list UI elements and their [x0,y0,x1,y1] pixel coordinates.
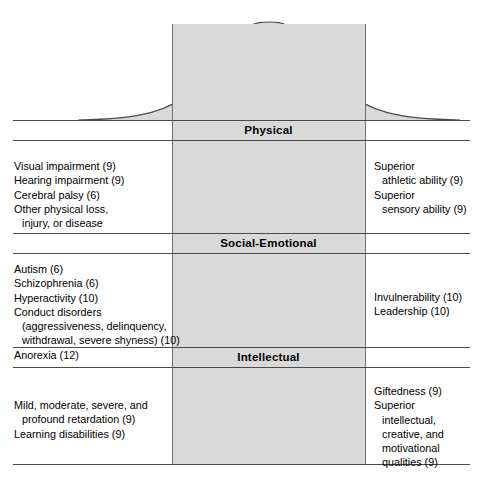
list-item: Cerebral palsy (6) [14,188,170,202]
list-item: Giftedness (9) [374,384,480,398]
band-title-intellectual: Intellectual [172,351,365,363]
band-title-physical: Physical [172,124,365,136]
list-item: Superior [374,159,480,173]
list-item: Conduct disorders [14,305,189,319]
intellectual-deficits-list: Mild, moderate, severe, and profound ret… [14,398,189,441]
list-item: intellectual, [374,413,480,427]
physical-deficits-list: Visual impairment (9) Hearing impairment… [14,159,170,230]
list-item: Learning disabilities (9) [14,427,189,441]
normal-curve-exceptionality-figure: "Normality" Physical Social-Emotional In… [0,0,484,480]
list-item: motivational [374,441,480,455]
list-item: athletic ability (9) [374,173,480,187]
list-item: Invulnerability (10) [374,290,480,304]
list-item: Hearing impairment (9) [14,173,170,187]
rule-intellectual-bottom [13,367,470,368]
normality-right-boundary [365,24,366,464]
shade-column-bands [172,122,365,464]
social-emotional-deficits-list: Autism (6) Schizophrenia (6) Hyperactivi… [14,262,189,362]
rule-social-bottom [13,253,470,254]
list-item: Superior [374,188,480,202]
list-item: Anorexia (12) [14,348,189,362]
list-item: Superior [374,398,480,412]
list-item: Visual impairment (9) [14,159,170,173]
list-item: withdrawal, severe shyness) (10) [14,333,189,347]
band-title-social-emotional: Social-Emotional [172,237,365,249]
list-item: Autism (6) [14,262,189,276]
list-item: Other physical loss, [14,202,170,216]
list-item: creative, and [374,427,480,441]
intellectual-superior-list: Giftedness (9) Superior intellectual, cr… [374,384,480,470]
shade-column-curve [172,24,365,122]
rule-social-top [13,233,470,234]
list-item: Leadership (10) [374,304,480,318]
social-emotional-superior-list: Invulnerability (10) Leadership (10) [374,290,480,319]
physical-superior-list: Superior athletic ability (9) Superior s… [374,159,480,216]
list-item: Mild, moderate, severe, and [14,398,189,412]
list-item: sensory ability (9) [374,202,480,216]
rule-physical-bottom [13,140,470,141]
list-item: Schizophrenia (6) [14,276,189,290]
list-item: Hyperactivity (10) [14,291,189,305]
list-item: profound retardation (9) [14,412,189,426]
rule-baseline [13,120,470,121]
list-item: qualities (9) [374,455,480,469]
list-item: (aggressiveness, delinquency, [14,319,189,333]
list-item: injury, or disease [14,216,170,230]
